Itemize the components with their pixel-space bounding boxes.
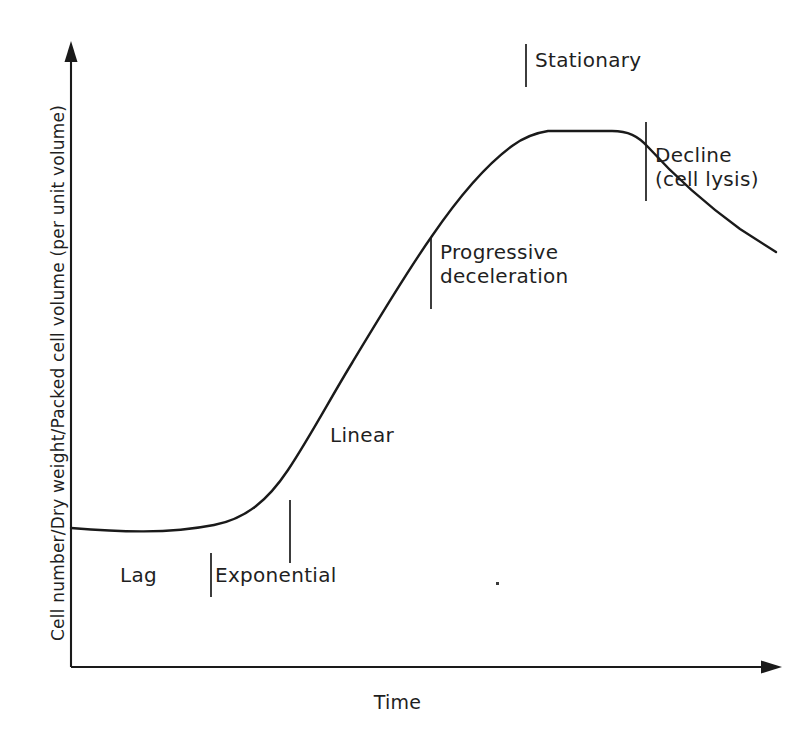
x-axis-label: Time: [0, 691, 795, 713]
y-axis-arrowhead-icon: [65, 41, 78, 62]
phase-label-decline: Decline (cell lysis): [655, 143, 759, 192]
phase-label-exponential: Exponential: [215, 563, 337, 587]
growth-curve-plot: [0, 0, 795, 737]
phase-label-progressive-deceleration: Progressive deceleration: [440, 240, 569, 289]
y-axis-label: Cell number/Dry weight/Packed cell volum…: [48, 105, 68, 641]
phase-label-stationary: Stationary: [535, 48, 641, 72]
growth-curve-figure: Cell number/Dry weight/Packed cell volum…: [0, 0, 795, 737]
phase-label-lag: Lag: [120, 563, 157, 587]
scan-speck: [496, 582, 499, 585]
phase-label-linear: Linear: [330, 423, 394, 447]
x-axis-arrowhead-icon: [761, 661, 782, 674]
